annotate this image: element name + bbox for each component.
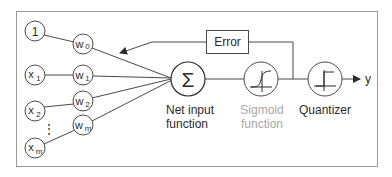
quantizer-label: Quantizer (299, 103, 351, 117)
weight-sub-w0: 0 (85, 42, 90, 51)
input-node-bias: 1 (25, 21, 45, 41)
input-node-xm: x m (25, 138, 45, 158)
weight-sub-w1: 1 (85, 74, 90, 83)
weight-node-w2: w 2 (73, 91, 93, 111)
sigmoid-label-line2: function (241, 117, 283, 131)
input-ellipsis: ⋮ (43, 122, 55, 136)
weight-sub-w2: 2 (85, 100, 90, 109)
error-label: Error (214, 35, 241, 49)
input-node-x1: x 1 (25, 65, 45, 85)
weight-node-wm: w m (73, 115, 93, 135)
input-sub-x1: 1 (36, 74, 41, 83)
input-label-xm: x (28, 141, 34, 153)
output-label: y (365, 72, 371, 86)
input-node-x2: x 2 (25, 101, 45, 121)
weight-label-w2: w (75, 95, 84, 107)
weight-nodes: w 0 w 1 w 2 w m (73, 34, 93, 135)
quantizer-node (308, 62, 342, 96)
net-input-label-line2: function (166, 117, 208, 131)
input-sub-xm: m (36, 147, 43, 156)
weight-sum-connections (92, 48, 172, 121)
net-input-label-line1: Net input (166, 103, 215, 117)
perceptron-diagram: 1 x 1 x 2 ⋮ x m w 0 w 1 (0, 0, 392, 177)
input-sub-x2: 2 (36, 110, 41, 119)
net-input-node: Σ (171, 62, 205, 96)
weight-node-w1: w 1 (73, 65, 93, 85)
error-arrow (120, 42, 206, 53)
weight-label-w1: w (75, 69, 84, 81)
input-label-x2: x (28, 104, 34, 116)
input-label-bias: 1 (32, 25, 39, 39)
weight-label-w0: w (75, 38, 84, 50)
weight-sub-wm: m (85, 124, 92, 133)
sigmoid-label-line1: Sigmoid (240, 103, 283, 117)
sigma-icon: Σ (182, 68, 195, 91)
sigmoid-node (244, 62, 278, 96)
input-nodes: 1 x 1 x 2 ⋮ x m (25, 21, 55, 158)
weight-label-wm: w (74, 119, 83, 131)
weight-node-w0: w 0 (73, 34, 93, 54)
input-label-x1: x (28, 68, 34, 80)
